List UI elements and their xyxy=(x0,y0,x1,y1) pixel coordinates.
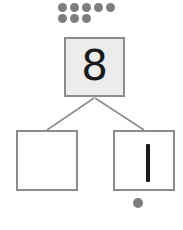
part-right-value-stroke xyxy=(146,144,150,182)
part-right-value-wrapper xyxy=(115,132,173,189)
part-left-value xyxy=(18,132,76,189)
connector-line-right xyxy=(95,98,144,130)
number-bond-worksheet: 8 xyxy=(0,0,183,230)
bond-connector-lines xyxy=(0,0,183,230)
part-box-left[interactable] xyxy=(16,130,78,191)
counter-dot-single xyxy=(133,198,143,208)
total-box[interactable]: 8 xyxy=(64,37,125,97)
part-box-right[interactable] xyxy=(113,130,175,191)
connector-line-left xyxy=(47,98,94,130)
total-value: 8 xyxy=(81,45,108,87)
